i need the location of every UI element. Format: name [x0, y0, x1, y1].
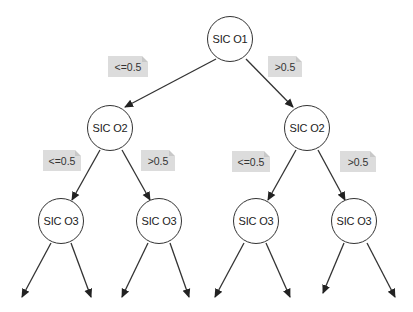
- node-label: SIC O3: [44, 215, 79, 227]
- edge-leaf-3: [122, 243, 148, 297]
- node-label: SIC O1: [213, 33, 248, 45]
- edge-l2r-left: [268, 150, 296, 200]
- node-l3-4: SIC O3: [331, 198, 377, 244]
- edge-label-l2r-left: <=0.5: [232, 151, 270, 172]
- node-l3-2: SIC O3: [136, 198, 182, 244]
- edge-leaf-4: [170, 243, 189, 297]
- edge-leaf-5: [215, 243, 244, 297]
- node-l3-1: SIC O3: [38, 198, 84, 244]
- edge-leaf-8: [367, 243, 395, 297]
- edge-label-root-right: >0.5: [268, 56, 302, 77]
- node-root: SIC O1: [207, 16, 253, 62]
- edge-leaf-2: [71, 243, 91, 297]
- node-l3-3: SIC O3: [233, 198, 279, 244]
- edge-leaf-1: [22, 243, 51, 297]
- node-label: SIC O2: [93, 122, 128, 134]
- edge-leaf-7: [323, 243, 344, 293]
- node-label: SIC O3: [142, 215, 177, 227]
- node-label: SIC O3: [337, 215, 372, 227]
- node-label: SIC O2: [290, 122, 325, 134]
- node-l2-left: SIC O2: [87, 105, 133, 151]
- edge-label-l2l-right: >0.5: [141, 150, 175, 171]
- edge-label-root-left: <=0.5: [108, 56, 148, 77]
- edge-label-l2l-left: <=0.5: [43, 150, 81, 171]
- node-l2-right: SIC O2: [284, 105, 330, 151]
- node-label: SIC O3: [239, 215, 274, 227]
- edge-leaf-6: [266, 243, 290, 297]
- edge-label-l2r-right: >0.5: [340, 151, 376, 172]
